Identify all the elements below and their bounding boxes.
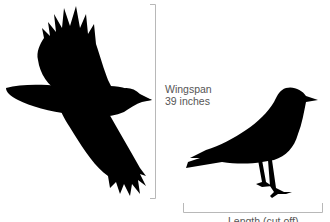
wingspan-value: 39 inches [165,95,212,107]
crow-size-diagram: Wingspan 39 inches Length (cut off) [0,0,330,222]
length-label-cutoff: Length (cut off) [228,215,298,222]
wingspan-title: Wingspan [165,83,212,95]
wingspan-label: Wingspan 39 inches [165,83,212,107]
length-bracket [184,203,323,213]
crow-flying-silhouette-icon [6,6,152,196]
wingspan-bracket [150,5,156,199]
